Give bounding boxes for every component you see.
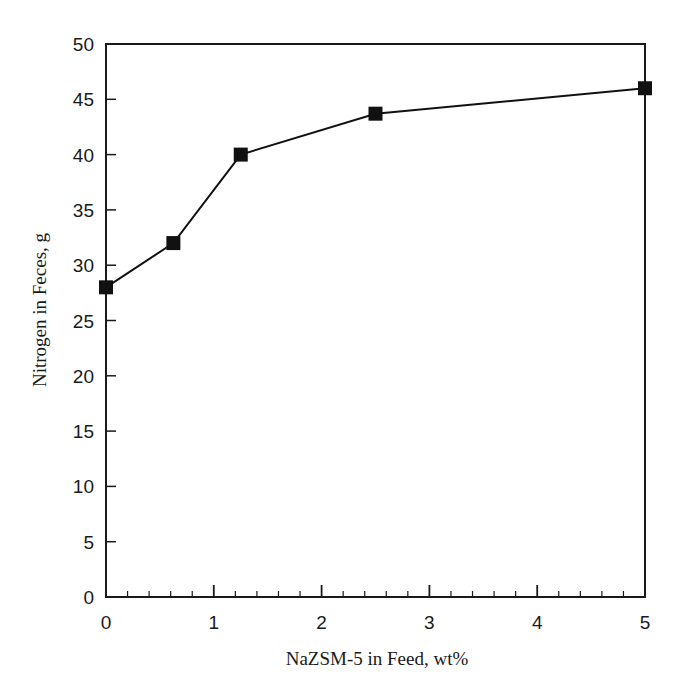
x-tick-label: 1: [209, 612, 220, 633]
y-tick-label: 25: [73, 311, 94, 332]
y-tick-label: 35: [73, 200, 94, 221]
x-tick-label: 3: [424, 612, 435, 633]
line-chart: 05101520253035404550 012345 NaZSM-5 in F…: [0, 0, 682, 694]
data-point-marker: [369, 107, 383, 121]
y-tick-label: 45: [73, 89, 94, 110]
y-tick-label: 20: [73, 366, 94, 387]
data-series: [99, 81, 652, 294]
x-tick-label: 4: [532, 612, 543, 633]
y-tick-label: 30: [73, 255, 94, 276]
y-tick-label: 40: [73, 145, 94, 166]
y-axis: 05101520253035404550: [73, 34, 116, 608]
y-tick-label: 50: [73, 34, 94, 55]
x-axis-title: NaZSM-5 in Feed, wt%: [286, 648, 469, 669]
data-point-marker: [166, 236, 180, 250]
x-tick-label: 0: [101, 612, 112, 633]
data-point-marker: [638, 81, 652, 95]
y-tick-label: 0: [83, 587, 94, 608]
y-tick-label: 15: [73, 421, 94, 442]
y-tick-label: 10: [73, 476, 94, 497]
y-tick-label: 5: [83, 532, 94, 553]
plot-frame: [106, 44, 645, 597]
x-axis: 012345: [101, 585, 651, 633]
data-point-marker: [99, 280, 113, 294]
y-axis-title: Nitrogen in Feces, g: [29, 232, 50, 387]
data-point-marker: [234, 148, 248, 162]
x-tick-label: 2: [316, 612, 327, 633]
x-tick-label: 5: [640, 612, 651, 633]
